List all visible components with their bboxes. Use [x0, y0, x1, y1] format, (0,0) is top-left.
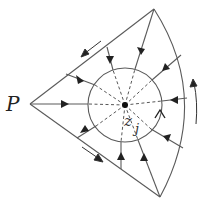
arrow-icon [81, 49, 89, 57]
inward-lines [30, 9, 187, 197]
edge-arc [154, 9, 185, 197]
label-z: z [123, 112, 132, 130]
center-point [122, 102, 128, 108]
arrow-icon [117, 152, 125, 160]
arrow-icon [190, 79, 197, 87]
edge-upper [30, 9, 154, 104]
arrow-icon [106, 56, 114, 64]
arrow-icon [61, 100, 69, 108]
arrow-icon [162, 63, 170, 71]
label-z-subscript: j [132, 121, 139, 136]
outer-contour [30, 9, 185, 197]
outer-arrow-arc [194, 83, 197, 124]
edge-lower [30, 104, 160, 197]
label-p: P [5, 92, 20, 116]
contour-diagram: P z j [0, 0, 209, 208]
arrow-icon [170, 96, 178, 104]
arrow-icon [76, 75, 84, 84]
arrow-icon [140, 153, 148, 161]
arrow-icon [137, 47, 145, 55]
